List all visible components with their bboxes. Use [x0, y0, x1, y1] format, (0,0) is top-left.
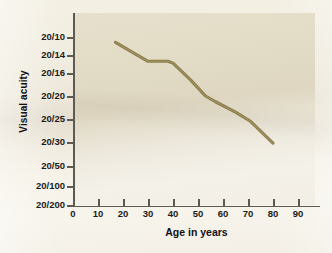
x-tick-mark-7 [248, 199, 250, 206]
y-tick-mark-4 [67, 119, 74, 121]
x-tick-mark-0 [73, 199, 75, 206]
y-tick-label-0: 20/10 [41, 32, 65, 42]
x-tick-label-9: 90 [285, 209, 311, 219]
x-tick-mark-5 [198, 199, 200, 206]
y-tick-mark-0 [67, 37, 74, 39]
x-tick-label-0: 0 [60, 209, 86, 219]
y-tick-mark-5 [67, 142, 74, 144]
x-tick-label-2: 20 [110, 209, 136, 219]
x-axis-line [73, 206, 320, 208]
x-tick-mark-2 [123, 199, 125, 206]
x-tick-label-3: 30 [135, 209, 161, 219]
x-tick-mark-3 [148, 199, 150, 206]
figure-visual-acuity-vs-age: 20/10 20/14 20/16 20/20 20/25 20/30 20/5… [0, 0, 332, 253]
x-tick-label-4: 40 [160, 209, 186, 219]
x-tick-mark-9 [298, 199, 300, 206]
x-tick-mark-1 [98, 199, 100, 206]
x-tick-mark-4 [173, 199, 175, 206]
y-tick-mark-6 [67, 166, 74, 168]
y-axis-line [73, 13, 75, 207]
y-axis-title: Visual acuity [18, 57, 29, 147]
x-axis-title: Age in years [73, 226, 320, 238]
x-tick-label-8: 80 [260, 209, 286, 219]
y-axis-tick-labels: 20/10 20/14 20/16 20/20 20/25 20/30 20/5… [0, 0, 65, 253]
x-tick-label-1: 10 [85, 209, 111, 219]
y-tick-label-4: 20/25 [41, 114, 65, 124]
x-tick-label-7: 70 [235, 209, 261, 219]
y-tick-label-3: 20/20 [41, 91, 65, 101]
y-tick-label-7: 20/100 [36, 181, 65, 191]
y-tick-mark-1 [67, 55, 74, 57]
x-tick-mark-8 [273, 199, 275, 206]
y-tick-label-6: 20/50 [41, 161, 65, 171]
y-tick-label-5: 20/30 [41, 137, 65, 147]
y-tick-label-1: 20/14 [41, 50, 65, 60]
y-tick-label-2: 20/16 [41, 68, 65, 78]
y-tick-mark-7 [67, 186, 74, 188]
plot-area-background [74, 13, 315, 205]
x-tick-label-6: 60 [210, 209, 236, 219]
x-tick-mark-6 [223, 199, 225, 206]
x-tick-label-5: 50 [185, 209, 211, 219]
y-tick-mark-2 [67, 73, 74, 75]
y-tick-mark-3 [67, 96, 74, 98]
